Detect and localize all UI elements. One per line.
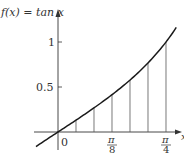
x-tick-pi4-den: 4: [163, 144, 169, 153]
tan-curve: [36, 27, 176, 146]
function-label: f(x) = tan x: [0, 6, 65, 19]
y-tick-label-1: 1: [48, 36, 55, 49]
tan-chart: f(x) = tan x 1 0.5 0 π 8 π 4 x: [0, 0, 184, 153]
x-tick-pi8-den: 8: [109, 144, 115, 153]
origin-label: 0: [61, 136, 68, 149]
y-tick-label-05: 0.5: [36, 81, 54, 94]
x-axis-label: x: [181, 131, 184, 142]
